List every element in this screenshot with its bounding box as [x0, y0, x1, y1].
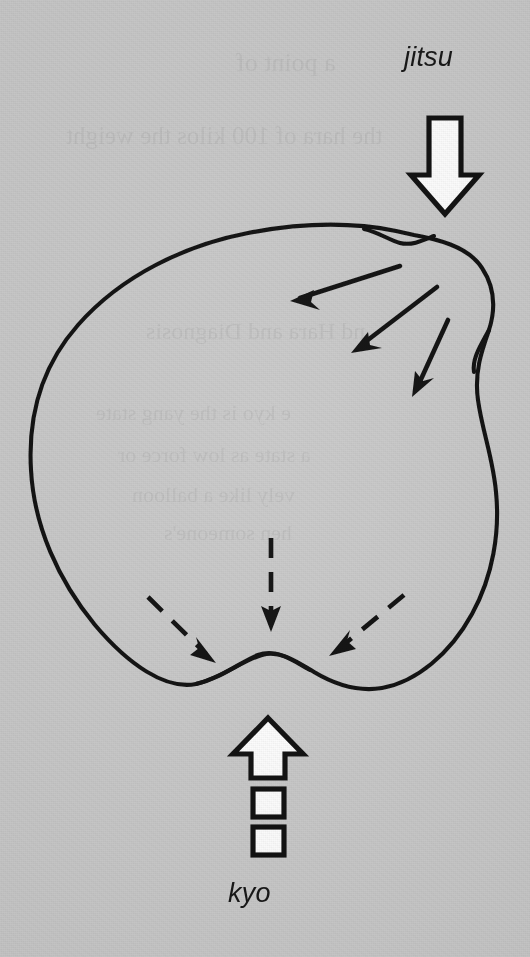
jitsu-flow-arrow-3 [412, 320, 448, 397]
label-kyo: kyo [228, 878, 271, 909]
jitsu-flow-arrow-1 [290, 266, 400, 310]
kyo-pull-arrow [233, 718, 303, 855]
kyo-arrow-head [233, 718, 303, 778]
kyo-arrow-dash-1 [253, 789, 284, 817]
diagram-artwork [0, 0, 530, 957]
kyo-flow-arrow-center [261, 538, 281, 632]
kyo-flow-arrows [148, 538, 404, 663]
jitsu-pressure-arrow [411, 118, 479, 214]
label-jitsu: jitsu [404, 42, 453, 73]
jitsu-flow-arrows [290, 266, 448, 397]
jitsu-flow-arrow-2 [351, 287, 437, 353]
kyo-flow-arrow-left [148, 597, 216, 663]
kyo-flow-arrow-right [329, 595, 404, 656]
kyo-arrow-dash-2 [253, 827, 284, 855]
figure-canvas: a point of the hara of 100 kilos the wei… [0, 0, 530, 957]
